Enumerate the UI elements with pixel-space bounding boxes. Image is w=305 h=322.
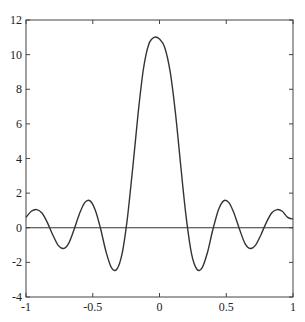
y-tick-label: 2 [16, 186, 22, 200]
x-tick-label: 0.5 [219, 300, 234, 314]
y-tick-label: 8 [16, 82, 22, 96]
y-tick-label: 10 [10, 48, 22, 62]
axis-ticks [26, 20, 293, 297]
y-tick-label: 12 [10, 13, 22, 27]
x-tick-label: -1 [21, 300, 31, 314]
x-tick-label: -0.5 [83, 300, 102, 314]
line-chart: -4-2024681012-1-0.500.51 [0, 0, 305, 322]
plot-frame [26, 20, 293, 297]
x-tick-label: 1 [290, 300, 296, 314]
y-tick-label: 0 [16, 221, 22, 235]
axis-tick-labels: -4-2024681012-1-0.500.51 [10, 13, 296, 314]
x-tick-label: 0 [157, 300, 163, 314]
data-series-line [26, 37, 293, 271]
y-tick-label: -2 [12, 255, 22, 269]
y-tick-label: 4 [16, 152, 22, 166]
y-tick-label: 6 [16, 117, 22, 131]
